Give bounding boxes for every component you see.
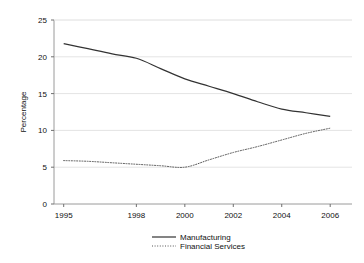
x-tick-label: 1995 xyxy=(55,211,73,220)
y-tick-label: 20 xyxy=(38,53,47,62)
legend-label: Financial Services xyxy=(180,242,245,251)
chart-background xyxy=(0,0,364,263)
x-tick-label: 2000 xyxy=(176,211,194,220)
chart-container: 0510152025 199519982000200220042006 Perc… xyxy=(0,0,364,263)
line-chart: 0510152025 199519982000200220042006 Perc… xyxy=(0,0,364,263)
y-tick-label: 0 xyxy=(43,200,48,209)
legend-label: Manufacturing xyxy=(180,233,231,242)
y-tick-label: 10 xyxy=(38,126,47,135)
x-tick-label: 2006 xyxy=(321,211,339,220)
x-tick-label: 2002 xyxy=(224,211,242,220)
y-tick-label: 5 xyxy=(43,163,48,172)
x-tick-label: 2004 xyxy=(273,211,291,220)
y-tick-label: 15 xyxy=(38,90,47,99)
x-tick-label: 1998 xyxy=(127,211,145,220)
y-tick-label: 25 xyxy=(38,16,47,25)
y-axis-title: Percentage xyxy=(19,91,28,132)
